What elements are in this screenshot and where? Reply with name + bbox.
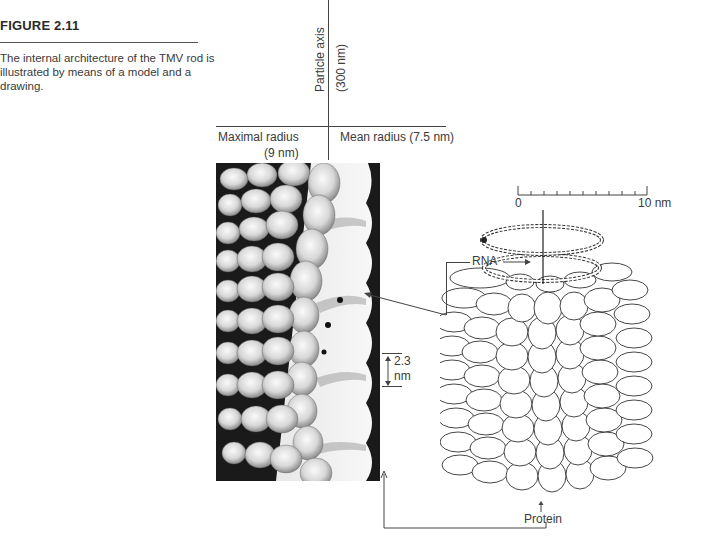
rna-pointer-arrow-icon <box>360 258 450 318</box>
scale-end-label: 10 nm <box>638 196 671 210</box>
particle-axis-length-label: (300 nm) <box>334 44 348 92</box>
pitch-double-arrow-icon <box>383 355 393 387</box>
tmv-model-photo <box>216 163 380 481</box>
maximal-radius-value: (9 nm) <box>264 146 299 160</box>
maximal-radius-label: Maximal radius <box>218 130 299 144</box>
particle-axis-label: Particle axis <box>313 27 327 92</box>
figure-number: FIGURE 2.11 <box>0 18 80 33</box>
protein-pointer-arrow-icon <box>380 470 390 496</box>
pitch-unit: nm <box>394 369 411 383</box>
mean-radius-label: Mean radius (7.5 nm) <box>340 130 454 144</box>
pitch-value: 2.3 <box>394 354 411 368</box>
radius-line <box>216 126 446 127</box>
rna-arrow-icon <box>503 257 533 267</box>
scale-bar <box>517 183 649 197</box>
scale-start-label: 0 <box>515 196 522 210</box>
protein-leader-line <box>380 494 550 534</box>
figure-caption: The internal architecture of the TMV rod… <box>0 51 220 93</box>
title-divider <box>0 42 198 43</box>
particle-axis-line <box>328 0 329 160</box>
rna-label: RNA <box>472 254 497 268</box>
